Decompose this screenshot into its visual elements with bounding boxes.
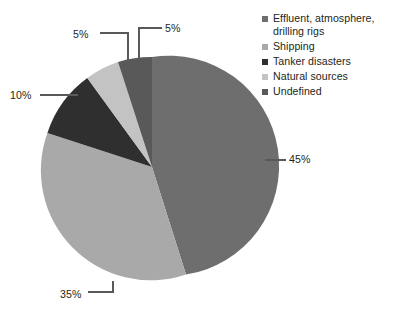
leader-line-5-undefined	[139, 28, 162, 58]
legend-swatch-icon	[262, 89, 268, 95]
legend-item-label: Tanker disasters	[273, 55, 351, 68]
legend-item-label: Undefined	[273, 85, 322, 98]
legend-swatch-icon	[262, 74, 268, 80]
legend-item-shipping[interactable]: Shipping	[262, 40, 395, 53]
legend-item-label: Natural sources	[273, 70, 348, 83]
legend-item-label: Shipping	[273, 40, 315, 53]
chart-legend: Effluent, atmosphere, drilling rigs Ship…	[262, 12, 395, 100]
pie-chart-figure: 45% 35% 10% 5% 5% Effluent, atmosphere, …	[0, 0, 395, 317]
legend-item-undefined[interactable]: Undefined	[262, 85, 395, 98]
legend-item-tanker-disasters[interactable]: Tanker disasters	[262, 55, 395, 68]
legend-item-label: Effluent, atmosphere, drilling rigs	[273, 12, 375, 38]
data-label-undefined: 5%	[165, 22, 180, 34]
legend-swatch-icon	[262, 16, 268, 22]
data-label-natural-sources: 5%	[73, 28, 88, 40]
leader-line-35	[88, 281, 113, 292]
data-label-effluent: 45%	[289, 153, 310, 165]
legend-item-natural-sources[interactable]: Natural sources	[262, 70, 395, 83]
data-label-tanker-disasters: 10%	[10, 89, 31, 101]
legend-swatch-icon	[262, 44, 268, 50]
data-label-shipping: 35%	[60, 288, 81, 300]
legend-swatch-icon	[262, 59, 268, 65]
legend-item-effluent[interactable]: Effluent, atmosphere, drilling rigs	[262, 12, 395, 38]
